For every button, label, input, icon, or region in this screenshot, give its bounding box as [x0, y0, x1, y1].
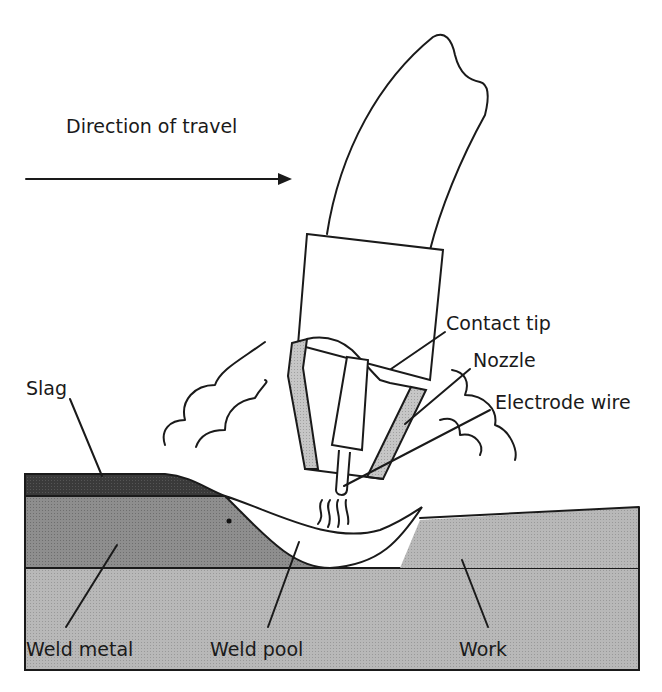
label-contact-tip: Contact tip [446, 312, 551, 334]
arrow-right-icon [26, 173, 292, 185]
label-electrode-wire: Electrode wire [495, 391, 631, 413]
label-work: Work [459, 638, 507, 660]
label-weld-metal: Weld metal [26, 638, 133, 660]
welding-diagram: Direction of travel [0, 0, 662, 692]
torch-hose [327, 35, 488, 250]
electrode-wire [336, 450, 350, 495]
torch-body [298, 234, 443, 380]
contact-tip [332, 357, 368, 450]
direction-label: Direction of travel [66, 115, 237, 137]
slag-layer [25, 474, 225, 496]
direction-of-travel: Direction of travel [26, 115, 292, 185]
shielding-gas-cloud-left [164, 342, 267, 447]
arc-icon [318, 500, 348, 527]
label-nozzle: Nozzle [473, 349, 536, 371]
label-weld-pool: Weld pool [210, 638, 303, 660]
label-slag: Slag [26, 377, 67, 399]
